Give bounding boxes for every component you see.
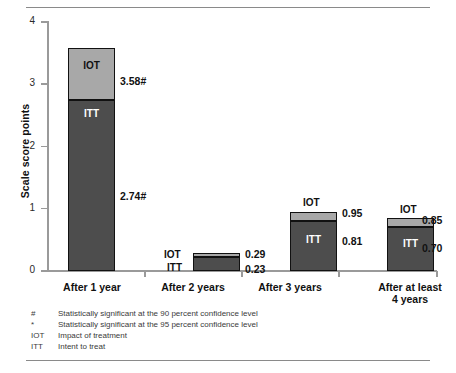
bar-group-after-2-years: [193, 253, 240, 271]
y-tick-2: [41, 146, 47, 148]
x-category-label-after-1-year: After 1 year: [48, 281, 136, 293]
y-tick-label-4: 4: [15, 16, 35, 26]
bar-segment-iot-label-2: IOT: [164, 250, 181, 260]
chart-footnotes: # Statistically significant at the 90 pe…: [31, 309, 258, 353]
x-tick-4: [436, 271, 438, 277]
bar-value-itt-2: 0.23: [245, 264, 265, 275]
y-tick-label-1: 1: [15, 203, 35, 213]
bar-segment-itt-label-3: ITT: [291, 235, 336, 245]
footnote-marker: #: [31, 309, 58, 318]
footnote-text: Statistically significant at the 95 perc…: [58, 320, 258, 329]
footnote-marker: ITT: [31, 342, 58, 351]
footnote-marker: IOT: [31, 331, 58, 340]
x-category-label-line2: 4 years: [392, 293, 428, 305]
x-category-label-line1: After at least: [378, 281, 442, 293]
y-tick-0: [41, 270, 47, 272]
bar-value-iot-1: 3.58#: [120, 76, 146, 87]
bottom-divider: [26, 360, 430, 361]
bar-value-itt-3: 0.81: [342, 236, 362, 247]
bar-segment-itt-label-1: ITT: [69, 109, 114, 119]
x-tick-1: [144, 271, 146, 277]
footnote-row: # Statistically significant at the 90 pe…: [31, 309, 258, 320]
y-tick-label-2: 2: [15, 141, 35, 151]
y-tick-3: [41, 83, 47, 85]
bar-segment-iot-label-1: IOT: [69, 61, 114, 71]
bar-value-iot-4: 0.85: [422, 215, 442, 226]
bar-value-itt-4: 0.70: [422, 243, 442, 254]
footnote-row: ITT Intent to treat: [31, 342, 258, 353]
footnote-text: Impact of treatment: [58, 331, 127, 340]
bar-group-after-1-year: IOT ITT: [68, 48, 115, 271]
x-category-label-after-at-least-4-years: After at least 4 years: [364, 281, 456, 305]
bar-segment-iot-1: IOT: [68, 48, 115, 100]
y-tick-1: [41, 208, 47, 210]
bar-segment-itt-1: ITT: [68, 100, 115, 271]
x-tick-2: [241, 271, 243, 277]
footnote-text: Intent to treat: [58, 342, 105, 351]
x-tick-3: [338, 271, 340, 277]
footnote-row: IOT Impact of treatment: [31, 331, 258, 342]
x-category-label-after-2-years: After 2 years: [147, 281, 239, 293]
bar-group-after-3-years: ITT: [290, 212, 337, 271]
bar-value-iot-3: 0.95: [342, 208, 362, 219]
y-tick-4: [41, 21, 47, 23]
bar-segment-iot-label-4: IOT: [400, 205, 417, 215]
bar-segment-iot-label-3: IOT: [303, 198, 320, 208]
bar-segment-iot-3: [290, 212, 337, 221]
bar-value-iot-2: 0.29: [245, 249, 265, 260]
bar-segment-itt-label-2: ITT: [167, 263, 182, 273]
footnote-marker: *: [31, 320, 58, 329]
chart-plot-area: Scale score points 4 3 2 1 0 IOT ITT 3.5…: [0, 0, 456, 300]
y-axis-line: [47, 21, 49, 271]
footnote-row: * Statistically significant at the 95 pe…: [31, 320, 258, 331]
bar-segment-itt-2: [193, 257, 240, 271]
y-tick-label-0: 0: [15, 265, 35, 275]
x-category-label-after-3-years: After 3 years: [244, 281, 336, 293]
bar-segment-itt-3: ITT: [290, 221, 337, 271]
footnote-text: Statistically significant at the 90 perc…: [58, 309, 258, 318]
bar-value-itt-1: 2.74#: [120, 191, 146, 202]
y-tick-label-3: 3: [15, 78, 35, 88]
